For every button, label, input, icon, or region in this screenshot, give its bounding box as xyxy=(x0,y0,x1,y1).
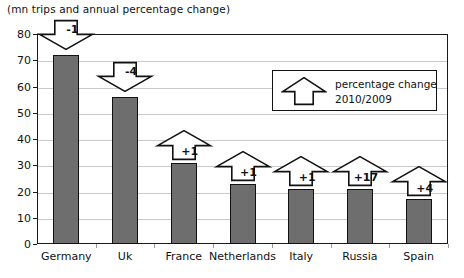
gridline xyxy=(38,140,447,141)
y-axis-tick-label: 50 xyxy=(2,106,31,119)
x-axis-category-label: Germany xyxy=(41,250,92,263)
annotation-label: -1 xyxy=(66,22,78,35)
x-axis-tick-mark xyxy=(448,244,449,248)
y-axis-tick-mark xyxy=(33,192,37,193)
x-axis-tick-mark xyxy=(96,244,97,248)
y-axis-tick-label: 40 xyxy=(2,133,31,146)
bar[interactable] xyxy=(406,199,432,244)
annotation-label: +1 xyxy=(181,145,198,158)
legend-line-1: percentage change xyxy=(335,77,437,92)
bar-chart: (mn trips and annual percentage change) … xyxy=(0,0,464,278)
bar[interactable] xyxy=(53,55,79,244)
annotation-label: +17 xyxy=(354,171,379,184)
y-axis-tick-label: 80 xyxy=(2,28,31,41)
bar[interactable] xyxy=(171,163,197,244)
x-axis-tick-mark xyxy=(272,244,273,248)
bar[interactable] xyxy=(288,189,314,244)
x-axis-category-label: Russia xyxy=(342,250,377,263)
y-axis-tick-mark xyxy=(33,113,37,114)
x-axis-tick-mark xyxy=(154,244,155,248)
y-axis-tick-mark xyxy=(33,139,37,140)
y-axis-tick-mark xyxy=(33,218,37,219)
gridline xyxy=(38,114,447,115)
annotation-label: +1 xyxy=(240,166,257,179)
y-axis-tick-mark xyxy=(33,87,37,88)
x-axis-category-label: Uk xyxy=(118,250,132,263)
bar[interactable] xyxy=(112,97,138,244)
x-axis-category-label: Italy xyxy=(289,250,313,263)
y-axis-tick-mark xyxy=(33,34,37,35)
y-axis-tick-mark xyxy=(33,244,37,245)
y-axis-tick-label: 0 xyxy=(2,238,31,251)
y-axis-tick-mark xyxy=(33,60,37,61)
x-axis-category-label: France xyxy=(165,250,202,263)
y-axis-tick-label: 20 xyxy=(2,185,31,198)
annotation-label: +1 xyxy=(299,171,316,184)
y-axis-tick-label: 10 xyxy=(2,211,31,224)
y-axis-tick-label: 60 xyxy=(2,80,31,93)
x-axis-tick-mark xyxy=(389,244,390,248)
up-arrow-icon xyxy=(281,76,327,110)
x-axis-tick-mark xyxy=(331,244,332,248)
bar[interactable] xyxy=(230,184,256,244)
chart-title: (mn trips and annual percentage change) xyxy=(7,3,230,15)
bar[interactable] xyxy=(347,189,373,244)
x-axis-tick-mark xyxy=(213,244,214,248)
x-axis-category-label: Netherlands xyxy=(209,250,276,263)
y-axis-tick-label: 70 xyxy=(2,54,31,67)
y-axis-tick-mark xyxy=(33,165,37,166)
legend-line-2: 2010/2009 xyxy=(335,92,437,107)
legend: percentage change2010/2009 xyxy=(272,70,437,111)
legend-text: percentage change2010/2009 xyxy=(335,77,437,106)
y-axis-tick-label: 30 xyxy=(2,159,31,172)
annotation-label: -4 xyxy=(125,64,137,77)
annotation-label: +4 xyxy=(416,181,433,194)
x-axis-category-label: Spain xyxy=(403,250,434,263)
